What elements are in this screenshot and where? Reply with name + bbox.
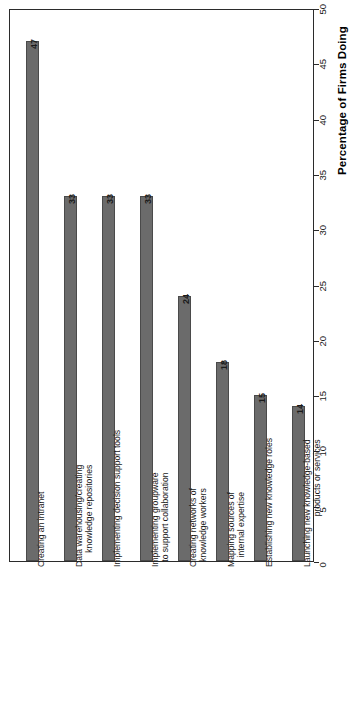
value-axis-tick-label-20: 20	[317, 336, 328, 347]
value-axis-tick-label-15: 15	[317, 391, 328, 402]
category-label-2: Implementing decision support tools	[112, 430, 122, 567]
category-label-7-line-0: Launching new knowledge-based	[302, 439, 312, 567]
category-axis: Creating an intranetData warehousing/cre…	[0, 563, 314, 716]
value-axis-tick-label-45: 45	[317, 59, 328, 70]
bar-value-label-4: 24	[181, 294, 191, 304]
bar-value-label-7: 14	[295, 404, 305, 414]
value-axis-tick-label-35: 35	[317, 170, 328, 181]
category-label-2-line-0: Implementing decision support tools	[112, 430, 122, 567]
value-axis-tick-label-50: 50	[317, 4, 328, 15]
category-label-5-line-1: internal expertise	[236, 492, 246, 567]
category-label-7-line-1: products or services	[312, 439, 322, 567]
category-label-4: Creating networks ofknowledge workers	[188, 488, 208, 567]
category-label-3-line-1: to support collaboration	[160, 472, 170, 567]
category-label-3: Implementing groupwareto support collabo…	[150, 472, 170, 567]
category-label-5-line-0: Mapping sources of	[226, 492, 236, 567]
category-label-0-line-0: Creating an intranet	[36, 492, 46, 567]
bar-chart-figure: 47 33 33 33 24 18 15 14 0510152025303540…	[0, 0, 359, 716]
category-label-6: Establishing new knowledge roles	[264, 438, 274, 567]
bar-value-label-6: 15	[257, 393, 267, 403]
value-axis-tick-label-25: 25	[317, 280, 328, 291]
bar-value-label-3: 33	[143, 194, 153, 204]
value-axis-tick-label-40: 40	[317, 115, 328, 126]
category-label-0: Creating an intranet	[36, 492, 46, 567]
category-label-1-line-1: knowledge repositories	[84, 465, 94, 567]
bar-0	[26, 41, 39, 561]
bar-value-label-1: 33	[67, 194, 77, 204]
category-label-7: Launching new knowledge-basedproducts or…	[302, 439, 322, 567]
category-label-5: Mapping sources ofinternal expertise	[226, 492, 246, 567]
category-label-3-line-0: Implementing groupware	[150, 472, 160, 567]
value-axis-title: Percentage of Firms Doing	[336, 26, 348, 175]
category-label-4-line-0: Creating networks of	[188, 488, 198, 567]
value-axis-tick-label-30: 30	[317, 225, 328, 236]
category-label-4-line-1: knowledge workers	[198, 488, 208, 567]
category-label-1: Data warehousing/creatingknowledge repos…	[74, 465, 94, 567]
bar-value-label-5: 18	[219, 360, 229, 370]
category-label-1-line-0: Data warehousing/creating	[74, 465, 84, 567]
bar-value-label-0: 47	[29, 39, 39, 49]
category-label-6-line-0: Establishing new knowledge roles	[264, 438, 274, 567]
bar-value-label-2: 33	[105, 194, 115, 204]
